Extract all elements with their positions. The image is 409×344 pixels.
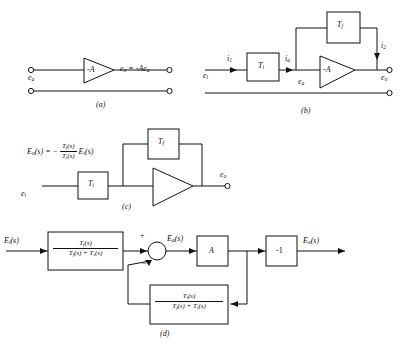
label-output-expression: eo = -Aea — [120, 65, 150, 74]
label-block-tf: Tf — [337, 21, 343, 30]
terminal-out — [225, 183, 230, 188]
figure-b-svg — [205, 0, 409, 122]
terminal-in-top — [28, 67, 33, 72]
terminal-out-top — [387, 67, 392, 72]
label-output-eo: eo — [381, 74, 387, 83]
figure-c-svg — [20, 118, 270, 215]
label-feedback-transfer-function: Ti(s) Tf(s) + Ti(s) — [155, 292, 223, 311]
label-current-i1: i1 — [227, 55, 232, 64]
label-input-ea: ea — [28, 74, 34, 83]
caption-a: (a) — [96, 100, 105, 109]
summing-minus-sign: − — [142, 259, 147, 268]
figure-d: Ei(s) Tf(s) Tf(s) + Ti(s) + − Ea(s) A -1… — [0, 215, 360, 344]
summing-junction — [148, 242, 166, 260]
label-block-ti: Ti — [258, 62, 264, 71]
terminal-out-bottom — [387, 90, 392, 95]
caption-c: (c) — [122, 202, 131, 211]
arrow-ia — [286, 67, 293, 73]
equation-lhs: Eo(s) = − — [27, 147, 58, 156]
figure-c: Eo(s) = − Tf(s) Ti(s) Ei(s) ei Ti Tf eo … — [20, 118, 270, 215]
figure-a: ea -A eo = -Aea (a) — [0, 0, 205, 118]
equation-fraction-numerator: Tf(s) — [60, 142, 77, 151]
feedback-numerator: Ti(s) — [155, 292, 223, 301]
arrow-i2 — [374, 53, 380, 60]
label-current-ia: ia — [285, 55, 290, 64]
arrow-to-sum — [140, 248, 147, 254]
equation-c: Eo(s) = − Tf(s) Ti(s) Ei(s) — [27, 142, 94, 161]
summing-plus-sign: + — [140, 231, 145, 240]
equation-fraction: Tf(s) Ti(s) — [60, 142, 77, 161]
label-amp-gain: -A — [323, 66, 331, 74]
block-tf — [327, 12, 360, 43]
label-output-eos: Eo(s) — [303, 237, 319, 246]
label-input-eis: Ei(s) — [4, 237, 19, 246]
feedback-denominator: Tf(s) + Ti(s) — [155, 301, 223, 311]
label-input-ei: ei — [21, 190, 26, 199]
amplifier-triangle — [153, 168, 193, 206]
forward-numerator: Tf(s) — [53, 239, 118, 248]
arrow-into-feedback — [231, 301, 238, 307]
label-error-signal-ea: Ea(s) — [167, 235, 183, 244]
terminal-out-bottom — [167, 88, 172, 93]
terminal-out-top — [167, 67, 172, 72]
label-block-gain-a: A — [209, 247, 214, 255]
arrow-i1 — [230, 67, 237, 73]
caption-b: (b) — [301, 106, 310, 115]
label-forward-transfer-function: Tf(s) Tf(s) + Ti(s) — [53, 239, 118, 258]
label-amp-gain: -A — [87, 66, 95, 74]
arrow-a-to-neg1 — [258, 248, 265, 254]
label-output-eo: eo — [220, 171, 226, 180]
equation-fraction-denominator: Ti(s) — [60, 151, 77, 161]
equation-rhs: Ei(s) — [79, 147, 94, 156]
label-input-ei: ei — [203, 72, 208, 81]
label-block-gain-neg1: -1 — [276, 247, 283, 255]
arrow-input — [40, 248, 47, 254]
label-block-tf: Tf — [158, 138, 164, 147]
forward-denominator: Tf(s) + Ti(s) — [53, 248, 118, 258]
figure-b: ei i1 Ti ia Tf i2 ea -A eo (b) — [205, 0, 409, 122]
label-current-i2: i2 — [381, 42, 386, 51]
label-node-ea: ea — [298, 78, 304, 87]
arrow-output — [338, 248, 345, 254]
label-block-ti: Ti — [88, 180, 94, 189]
caption-d: (d) — [160, 329, 169, 338]
terminal-in-bottom — [28, 88, 33, 93]
arrow-sum-to-a — [189, 248, 196, 254]
